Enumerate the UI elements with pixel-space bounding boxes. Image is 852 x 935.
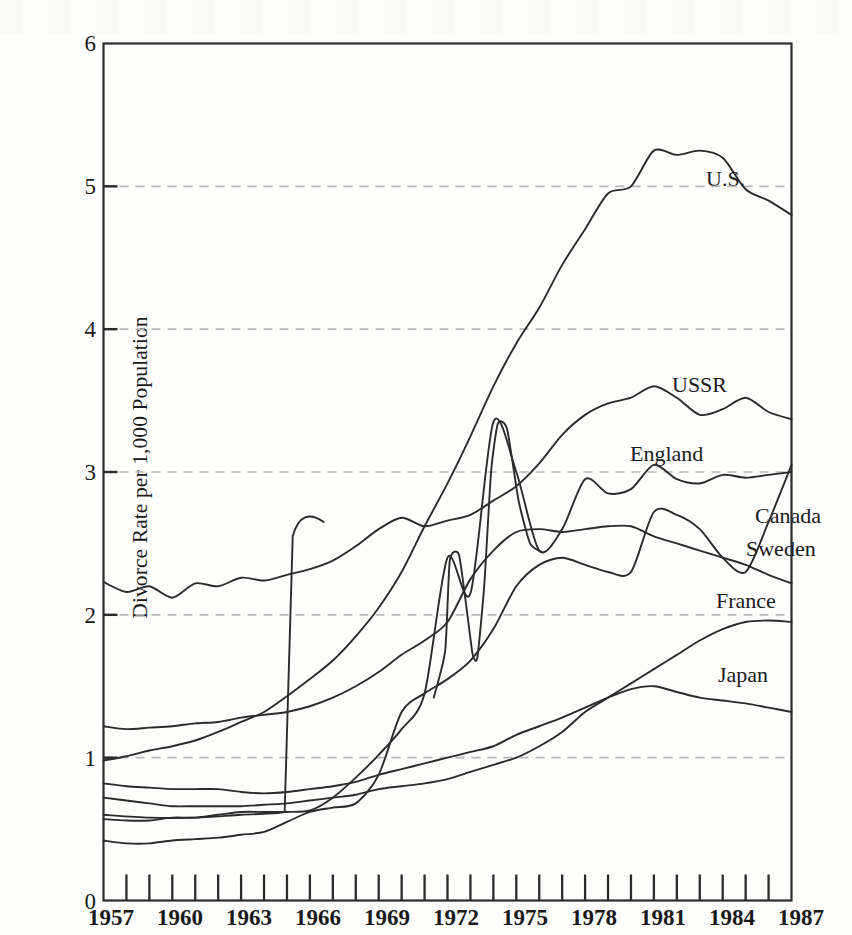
divorce-rate-line-chart: Divorce Rate per 1,000 Population 6 5 4 … [0, 0, 852, 935]
x-axis-ticks-group [126, 875, 768, 901]
plot-canvas [0, 0, 852, 935]
series-lines-group [104, 149, 792, 843]
y-axis-ticks-group [104, 186, 118, 757]
gridlines-group [104, 186, 792, 757]
